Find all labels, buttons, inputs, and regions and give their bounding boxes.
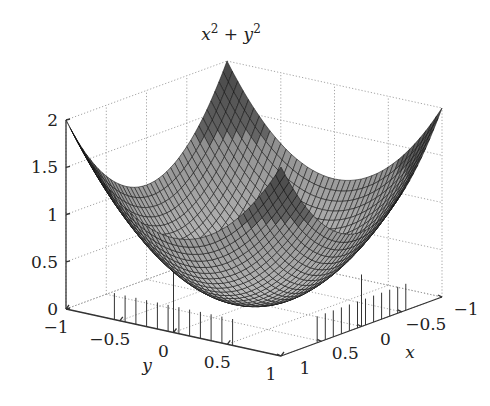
y-tick-label: −0.5 — [89, 329, 130, 349]
x-axis-label: x — [405, 342, 415, 362]
y-tick-label: 0 — [158, 341, 169, 361]
z-tick-label: 1.5 — [31, 157, 58, 177]
y-axis-label: y — [141, 355, 152, 375]
y-tick-label: 1 — [266, 364, 277, 384]
z-tick-label: 2 — [47, 110, 58, 130]
y-tick-label: −1 — [43, 317, 68, 337]
x-tick-label: −1 — [453, 299, 478, 319]
x-tick-label: 0.5 — [332, 343, 359, 363]
z-tick-label: 0 — [47, 299, 58, 319]
title-text: x2 + y2 — [201, 22, 261, 44]
chart-title: x2 + y2 — [201, 22, 261, 44]
z-tick-label: 1 — [47, 205, 58, 225]
y-tick-label: 0.5 — [204, 352, 231, 372]
surface-plot: 00.511.52−1−0.500.51−1−0.500.51 x2 + y2 … — [0, 0, 490, 406]
x-tick-label: −0.5 — [405, 314, 446, 334]
x-tick-label: 1 — [300, 358, 311, 378]
x-tick-label: 0 — [380, 329, 391, 349]
surface-mesh — [66, 61, 442, 307]
z-tick-label: 0.5 — [31, 252, 58, 272]
